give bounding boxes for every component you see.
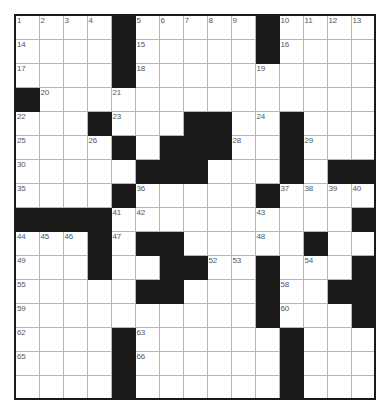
crossword-cell[interactable] (207, 375, 231, 399)
crossword-cell[interactable]: 9 (231, 15, 255, 39)
crossword-cell[interactable] (207, 351, 231, 375)
crossword-cell[interactable]: 38 (303, 183, 327, 207)
crossword-cell[interactable] (63, 111, 87, 135)
crossword-cell[interactable] (39, 327, 63, 351)
crossword-cell[interactable] (231, 327, 255, 351)
crossword-cell[interactable] (87, 279, 111, 303)
crossword-cell[interactable] (63, 39, 87, 63)
crossword-cell[interactable] (351, 351, 375, 375)
crossword-cell[interactable]: 25 (15, 135, 39, 159)
crossword-cell[interactable] (63, 255, 87, 279)
crossword-cell[interactable]: 3 (63, 15, 87, 39)
crossword-cell[interactable] (39, 255, 63, 279)
crossword-cell[interactable]: 19 (255, 63, 279, 87)
crossword-cell[interactable]: 53 (231, 255, 255, 279)
crossword-cell[interactable] (351, 39, 375, 63)
crossword-cell[interactable] (63, 135, 87, 159)
crossword-cell[interactable] (303, 159, 327, 183)
crossword-cell[interactable] (63, 279, 87, 303)
crossword-cell[interactable]: 30 (15, 159, 39, 183)
crossword-cell[interactable] (255, 351, 279, 375)
crossword-cell[interactable] (279, 255, 303, 279)
crossword-cell[interactable] (255, 135, 279, 159)
crossword-cell[interactable] (327, 39, 351, 63)
crossword-cell[interactable] (327, 111, 351, 135)
crossword-cell[interactable] (327, 231, 351, 255)
crossword-cell[interactable] (183, 231, 207, 255)
crossword-cell[interactable] (39, 303, 63, 327)
crossword-cell[interactable] (159, 375, 183, 399)
crossword-cell[interactable] (159, 351, 183, 375)
crossword-cell[interactable] (279, 231, 303, 255)
crossword-cell[interactable] (207, 87, 231, 111)
crossword-cell[interactable] (207, 159, 231, 183)
crossword-cell[interactable] (39, 111, 63, 135)
crossword-cell[interactable] (39, 159, 63, 183)
crossword-cell[interactable] (303, 207, 327, 231)
crossword-cell[interactable] (327, 63, 351, 87)
crossword-cell[interactable]: 47 (111, 231, 135, 255)
crossword-cell[interactable] (63, 183, 87, 207)
crossword-cell[interactable] (63, 327, 87, 351)
crossword-cell[interactable]: 54 (303, 255, 327, 279)
crossword-cell[interactable]: 52 (207, 255, 231, 279)
crossword-cell[interactable]: 17 (15, 63, 39, 87)
crossword-cell[interactable] (303, 63, 327, 87)
crossword-cell[interactable]: 22 (15, 111, 39, 135)
crossword-cell[interactable] (231, 279, 255, 303)
crossword-cell[interactable] (351, 111, 375, 135)
crossword-cell[interactable] (207, 39, 231, 63)
crossword-cell[interactable] (63, 159, 87, 183)
crossword-cell[interactable] (39, 375, 63, 399)
crossword-cell[interactable] (207, 207, 231, 231)
crossword-cell[interactable] (135, 303, 159, 327)
crossword-cell[interactable]: 15 (135, 39, 159, 63)
crossword-cell[interactable] (111, 159, 135, 183)
crossword-cell[interactable]: 45 (39, 231, 63, 255)
crossword-cell[interactable] (135, 87, 159, 111)
crossword-cell[interactable]: 59 (15, 303, 39, 327)
crossword-cell[interactable] (159, 39, 183, 63)
crossword-cell[interactable] (111, 279, 135, 303)
crossword-cell[interactable] (159, 183, 183, 207)
crossword-cell[interactable] (207, 63, 231, 87)
crossword-cell[interactable] (15, 375, 39, 399)
crossword-cell[interactable] (87, 39, 111, 63)
crossword-cell[interactable]: 44 (15, 231, 39, 255)
crossword-cell[interactable] (207, 303, 231, 327)
crossword-cell[interactable] (207, 279, 231, 303)
crossword-cell[interactable] (231, 159, 255, 183)
crossword-cell[interactable] (231, 87, 255, 111)
crossword-cell[interactable] (303, 375, 327, 399)
crossword-cell[interactable] (87, 375, 111, 399)
crossword-cell[interactable] (231, 39, 255, 63)
crossword-cell[interactable]: 5 (135, 15, 159, 39)
crossword-cell[interactable] (231, 303, 255, 327)
crossword-cell[interactable]: 36 (135, 183, 159, 207)
crossword-cell[interactable] (327, 87, 351, 111)
crossword-cell[interactable] (135, 111, 159, 135)
crossword-cell[interactable] (207, 183, 231, 207)
crossword-cell[interactable]: 49 (15, 255, 39, 279)
crossword-cell[interactable]: 4 (87, 15, 111, 39)
crossword-cell[interactable] (159, 303, 183, 327)
crossword-cell[interactable] (327, 327, 351, 351)
crossword-cell[interactable] (231, 207, 255, 231)
crossword-cell[interactable] (303, 279, 327, 303)
crossword-cell[interactable] (231, 351, 255, 375)
crossword-cell[interactable] (183, 63, 207, 87)
crossword-cell[interactable] (39, 279, 63, 303)
crossword-cell[interactable] (63, 87, 87, 111)
crossword-cell[interactable] (159, 111, 183, 135)
crossword-cell[interactable] (255, 87, 279, 111)
crossword-cell[interactable]: 66 (135, 351, 159, 375)
crossword-cell[interactable]: 26 (87, 135, 111, 159)
crossword-cell[interactable]: 1 (15, 15, 39, 39)
crossword-cell[interactable] (87, 159, 111, 183)
crossword-cell[interactable] (87, 63, 111, 87)
crossword-cell[interactable] (279, 207, 303, 231)
crossword-cell[interactable]: 63 (135, 327, 159, 351)
crossword-cell[interactable] (231, 63, 255, 87)
crossword-cell[interactable]: 14 (15, 39, 39, 63)
crossword-cell[interactable] (327, 255, 351, 279)
